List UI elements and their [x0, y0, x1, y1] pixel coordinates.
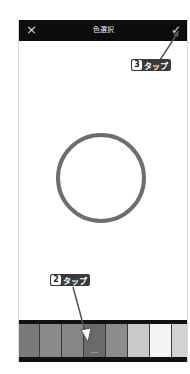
annotation-step-3: 3 タップ: [131, 59, 171, 71]
annotation-step-2: 2 タップ: [50, 274, 90, 286]
annotation-arrows: [0, 0, 190, 374]
